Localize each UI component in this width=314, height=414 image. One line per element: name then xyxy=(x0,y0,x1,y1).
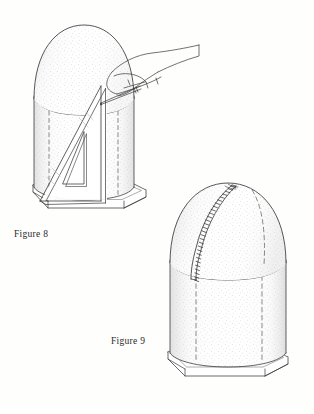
figure-9-caption: Figure 9 xyxy=(111,336,145,346)
illustration-page: Figure 8 Figure 9 xyxy=(0,0,314,414)
pencil-point-contact xyxy=(100,103,102,105)
figure-9-illustration xyxy=(168,183,288,377)
figure-plate xyxy=(0,0,314,414)
figure-8-caption: Figure 8 xyxy=(14,229,48,239)
